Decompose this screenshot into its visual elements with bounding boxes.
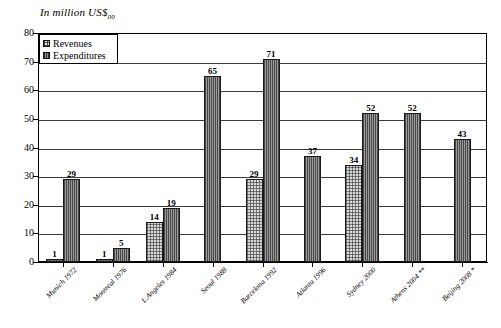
bar-value-label: 29 bbox=[250, 170, 259, 179]
y-tick-label-30: 30 bbox=[8, 171, 34, 181]
legend-item-revenues[interactable]: Revenues bbox=[43, 37, 112, 49]
y-tick-label-80: 80 bbox=[8, 28, 34, 38]
chart-title: In million US$00 bbox=[40, 6, 115, 21]
bar-expenditures-6: 52 bbox=[362, 113, 379, 262]
y-tick-label-20: 20 bbox=[8, 200, 34, 210]
bar-value-label: 37 bbox=[308, 147, 317, 156]
x-label-text: Munich 1972 bbox=[45, 266, 79, 300]
bar-expenditures-0: 29 bbox=[63, 179, 80, 262]
legend-label: Expenditures bbox=[53, 50, 106, 61]
x-label-text: Barcelona 1992 bbox=[239, 266, 278, 305]
bar-value-label: 52 bbox=[366, 104, 375, 113]
y-tick-mark-20 bbox=[33, 205, 38, 206]
bar-expenditures-4: 71 bbox=[263, 59, 280, 262]
legend-label: Revenues bbox=[53, 38, 92, 49]
y-tick-mark-80 bbox=[33, 33, 38, 34]
bar-value-label: 19 bbox=[167, 199, 176, 208]
bar-expenditures-2: 19 bbox=[163, 208, 180, 262]
bar-value-label: 1 bbox=[102, 250, 107, 259]
y-tick-mark-50 bbox=[33, 119, 38, 120]
bar-value-label: 65 bbox=[208, 67, 217, 76]
bar-expenditures-8: 43 bbox=[454, 139, 471, 262]
x-label-text: Montreal 1976 bbox=[91, 266, 128, 303]
x-label-text: Seoul 1988 bbox=[199, 266, 228, 295]
x-axis-category-labels: Munich 1972Montreal 1976L.Angeles 1984Se… bbox=[0, 262, 501, 328]
chart-title-text: In million US$ bbox=[40, 6, 108, 18]
y-tick-label-50: 50 bbox=[8, 114, 34, 124]
olympics-cost-bar-chart: In million US$00 01020304050607080 12915… bbox=[0, 0, 501, 328]
bar-value-label: 29 bbox=[67, 170, 76, 179]
bar-value-label: 43 bbox=[458, 130, 467, 139]
y-tick-mark-0 bbox=[33, 262, 38, 263]
x-label-text: Athens 2004 ** bbox=[389, 266, 428, 305]
legend-item-expenditures[interactable]: Expenditures bbox=[43, 49, 112, 61]
bar-expenditures-5: 37 bbox=[304, 156, 321, 262]
x-label-text: Atlanta 1996 bbox=[295, 266, 328, 299]
bar-value-label: 34 bbox=[349, 156, 358, 165]
bar-value-label: 14 bbox=[150, 213, 159, 222]
y-tick-mark-70 bbox=[33, 62, 38, 63]
x-label-text: Beijing 2008 * bbox=[441, 266, 478, 303]
y-tick-label-40: 40 bbox=[8, 143, 34, 153]
bar-value-label: 1 bbox=[52, 250, 57, 259]
y-tick-mark-40 bbox=[33, 148, 38, 149]
x-label-text: Sydney 2000 bbox=[345, 266, 378, 299]
y-tick-mark-60 bbox=[33, 90, 38, 91]
y-tick-label-60: 60 bbox=[8, 85, 34, 95]
bars-layer: 1291514196529713734525243 bbox=[38, 33, 487, 262]
chart-legend: RevenuesExpenditures bbox=[39, 34, 118, 64]
chart-title-subscript: 00 bbox=[108, 13, 115, 21]
legend-swatch-expenditures-icon bbox=[43, 52, 50, 59]
y-tick-label-10: 10 bbox=[8, 228, 34, 238]
y-tick-label-70: 70 bbox=[8, 57, 34, 67]
legend-swatch-revenues-icon bbox=[43, 40, 50, 47]
y-tick-mark-10 bbox=[33, 233, 38, 234]
bar-value-label: 5 bbox=[119, 239, 124, 248]
x-label-text: L.Angeles 1984 bbox=[140, 266, 179, 305]
bar-value-label: 71 bbox=[267, 50, 276, 59]
bar-expenditures-7: 52 bbox=[404, 113, 421, 262]
y-tick-mark-30 bbox=[33, 176, 38, 177]
bar-value-label: 52 bbox=[408, 104, 417, 113]
